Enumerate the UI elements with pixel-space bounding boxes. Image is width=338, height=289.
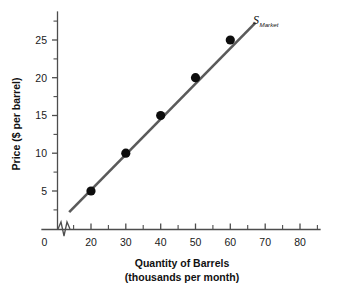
data-point-50-20 [191,73,200,82]
y-tick-label-25: 25 [35,34,47,46]
x-tick-label-50: 50 [190,236,202,248]
y-tick-label-15: 15 [35,109,47,121]
data-point-30-10 [121,149,130,158]
data-point-60-25 [226,35,235,44]
curve-label-main-text: S [253,13,259,27]
y-tick-label-5: 5 [41,185,47,197]
x-axis-title: Quantity of Barrels [135,257,230,269]
x-tick-label-80: 80 [294,236,306,248]
curve-label-subscript-text: Market [260,21,279,28]
y-axis-title: Price ($ per barrel) [10,78,22,171]
x-axis-subtitle: (thousands per month) [125,271,239,283]
x-tick-label-20: 20 [85,236,97,248]
origin-label: 0 [42,236,48,248]
x-tick-label-30: 30 [120,236,132,248]
y-tick-label-10: 10 [35,147,47,159]
x-tick-label-70: 70 [259,236,271,248]
data-point-20-5 [86,186,95,195]
y-tick-label-20: 20 [35,72,47,84]
chart-background [0,0,338,289]
chart-container: 5 10 15 20 25 0 20 30 40 50 60 70 80 [0,0,338,289]
supply-curve-chart: 5 10 15 20 25 0 20 30 40 50 60 70 80 [0,0,338,289]
x-tick-label-60: 60 [224,236,236,248]
data-point-40-15 [156,111,165,120]
x-tick-label-40: 40 [155,236,167,248]
